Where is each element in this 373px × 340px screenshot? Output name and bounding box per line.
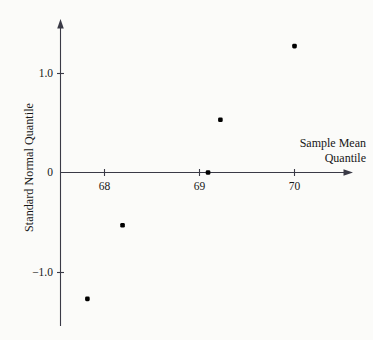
y-axis-title: Standard Normal Quantile [22,103,37,232]
x-axis-arrowhead [344,169,354,176]
x-tick-label-68: 68 [99,181,111,193]
y-axis-arrowhead [57,19,64,29]
x-axis-title: Sample Mean Quantile [230,136,366,165]
data-point [218,117,223,122]
y-tick-label-1: 1.0 [27,68,53,80]
data-point [85,297,90,302]
x-axis-title-line2: Quantile [230,151,366,166]
x-tick-label-70: 70 [289,181,301,193]
x-tick-label-69: 69 [194,181,206,193]
y-tick-label-minus-1: −1.0 [22,267,53,279]
data-point [206,170,211,175]
qq-plot-figure: 1.0 0 −1.0 68 69 70 Standard Normal Quan… [0,0,373,340]
plot-canvas [0,0,373,340]
data-point [120,223,125,228]
x-axis-title-line1: Sample Mean [230,136,366,151]
data-point [292,44,297,49]
